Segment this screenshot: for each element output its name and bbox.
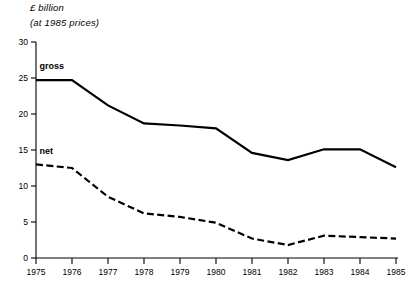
- x-axis-tick-label: 1976: [63, 267, 82, 277]
- y-axis-tick-label: 5: [23, 217, 28, 227]
- x-axis: 1975197619771978197919801981198219831984…: [27, 258, 406, 277]
- x-axis-tick-label: 1975: [27, 267, 46, 277]
- x-axis-tick-label: 1982: [279, 267, 298, 277]
- series-line-net: [36, 164, 396, 245]
- line-chart: £ billion (at 1985 prices) 051015202530 …: [0, 0, 417, 299]
- series-line-gross: [36, 80, 396, 167]
- y-axis-tick-label: 25: [19, 73, 29, 83]
- x-axis-tick-label: 1983: [315, 267, 334, 277]
- x-axis-tick-label: 1978: [135, 267, 154, 277]
- series-annotations: grossnet: [40, 61, 65, 156]
- series-lines: [36, 80, 396, 245]
- x-axis-tick-label: 1979: [171, 267, 190, 277]
- x-axis-tick-label: 1977: [99, 267, 118, 277]
- chart-plot-area: 051015202530 197519761977197819791980198…: [0, 0, 417, 299]
- series-label-gross: gross: [40, 61, 65, 71]
- y-axis-tick-label: 20: [19, 109, 29, 119]
- series-label-net: net: [40, 146, 54, 156]
- x-axis-tick-label: 1985: [387, 267, 406, 277]
- y-axis-tick-label: 15: [19, 145, 29, 155]
- x-axis-tick-label: 1980: [207, 267, 226, 277]
- y-axis-tick-label: 0: [23, 253, 28, 263]
- x-axis-tick-label: 1984: [351, 267, 370, 277]
- y-axis-tick-label: 30: [19, 37, 29, 47]
- x-axis-tick-label: 1981: [243, 267, 262, 277]
- y-axis: 051015202530: [19, 37, 36, 263]
- y-axis-tick-label: 10: [19, 181, 29, 191]
